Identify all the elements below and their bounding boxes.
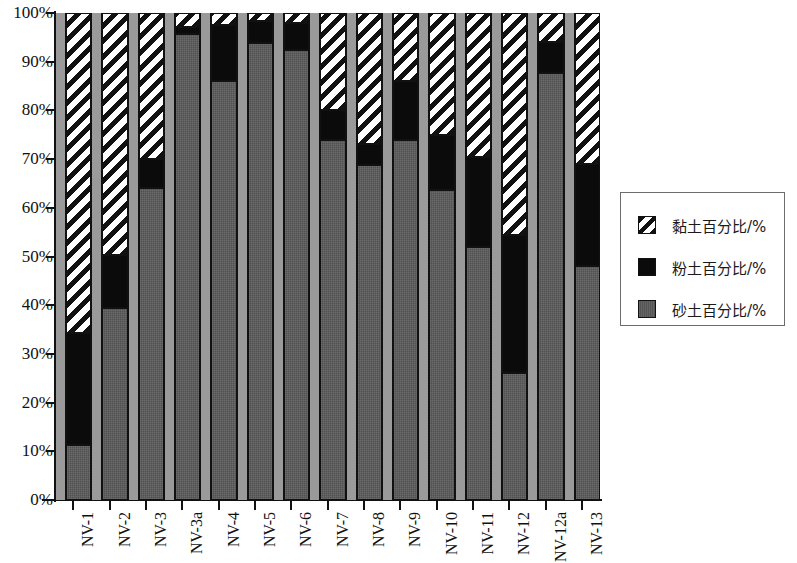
bar-segment-silt[interactable] xyxy=(393,81,418,139)
bar-gap-strip xyxy=(164,13,175,500)
bar-segment-silt[interactable] xyxy=(248,21,273,43)
x-axis-tick xyxy=(327,501,329,510)
x-axis-tick xyxy=(290,501,292,510)
bar-segment-silt[interactable] xyxy=(284,23,309,50)
x-axis-tick-label: NV-4 xyxy=(226,512,242,547)
x-axis-tick xyxy=(436,501,438,510)
bar-segment-silt[interactable] xyxy=(538,42,563,73)
bar-segment-clay[interactable] xyxy=(139,13,164,159)
bar-segment-clay[interactable] xyxy=(102,13,127,255)
stacked-bar[interactable] xyxy=(575,13,600,500)
bar-segment-sand[interactable] xyxy=(139,188,164,500)
bar-segment-silt[interactable] xyxy=(320,110,345,139)
bar-gap-strip xyxy=(382,13,393,500)
bar-segment-sand[interactable] xyxy=(502,373,527,500)
bar-segment-silt[interactable] xyxy=(175,27,200,34)
x-axis-tick-label: NV-1 xyxy=(80,512,96,547)
bar-segment-silt[interactable] xyxy=(66,333,91,445)
legend-item: 砂土百分比/% xyxy=(638,299,766,319)
bar-segment-silt[interactable] xyxy=(466,157,491,247)
x-axis-tick xyxy=(218,501,220,510)
bar-segment-sand[interactable] xyxy=(466,247,491,500)
stacked-bar[interactable] xyxy=(211,13,236,500)
x-axis-tick-label: NV-12a xyxy=(553,512,569,562)
stacked-bar[interactable] xyxy=(248,13,273,500)
bar-segment-sand[interactable] xyxy=(66,445,91,500)
bar-segment-sand[interactable] xyxy=(320,140,345,500)
y-axis-tick-label: 100% xyxy=(13,4,53,21)
bar-segment-clay[interactable] xyxy=(393,13,418,81)
bar-gap-strip xyxy=(527,13,538,500)
bar-segment-clay[interactable] xyxy=(211,13,236,25)
x-axis-tick xyxy=(181,501,183,510)
stacked-bar[interactable] xyxy=(320,13,345,500)
x-axis-tick-label: NV-6 xyxy=(298,512,314,547)
stacked-bar[interactable] xyxy=(175,13,200,500)
bar-segment-sand[interactable] xyxy=(102,308,127,500)
x-axis-tick xyxy=(545,501,547,510)
bar-gap-strip xyxy=(91,13,102,500)
y-axis-tick-label: 0% xyxy=(30,491,53,508)
bar-segment-silt[interactable] xyxy=(211,25,236,81)
bar-gap-strip xyxy=(55,13,66,500)
bar-segment-sand[interactable] xyxy=(284,50,309,500)
legend-item-label: 黏土百分比/% xyxy=(672,215,766,236)
stacked-bar[interactable] xyxy=(466,13,491,500)
stacked-bar[interactable] xyxy=(538,13,563,500)
bar-segment-clay[interactable] xyxy=(575,13,600,164)
bar-segment-sand[interactable] xyxy=(211,81,236,500)
sand-gray-swatch xyxy=(638,300,656,318)
x-axis-tick-label: NV-7 xyxy=(335,512,351,547)
bar-gap-strip xyxy=(200,13,211,500)
y-axis-tick-label: 60% xyxy=(22,199,53,216)
x-axis-tick-label: NV-3a xyxy=(189,512,205,554)
bar-segment-sand[interactable] xyxy=(393,140,418,500)
stacked-bar[interactable] xyxy=(357,13,382,500)
bar-segment-sand[interactable] xyxy=(429,190,454,500)
bar-segment-clay[interactable] xyxy=(538,13,563,42)
x-axis-tick-label: NV-2 xyxy=(117,512,133,547)
bar-segment-clay[interactable] xyxy=(248,13,273,21)
x-axis-tick xyxy=(363,501,365,510)
bar-gap-strip xyxy=(491,13,502,500)
stacked-bar[interactable] xyxy=(284,13,309,500)
y-axis-tick-label: 20% xyxy=(22,394,53,411)
bar-segment-sand[interactable] xyxy=(575,266,600,500)
x-axis-tick xyxy=(72,501,74,510)
x-axis-tick xyxy=(508,501,510,510)
bar-segment-sand[interactable] xyxy=(175,34,200,500)
stacked-bar[interactable] xyxy=(139,13,164,500)
x-axis-tick xyxy=(109,501,111,510)
bar-segment-sand[interactable] xyxy=(357,165,382,500)
bar-gap-strip xyxy=(237,13,248,500)
stacked-bar[interactable] xyxy=(429,13,454,500)
legend-item-label: 砂土百分比/% xyxy=(672,299,766,320)
bar-segment-clay[interactable] xyxy=(320,13,345,110)
bar-gap-strip xyxy=(273,13,284,500)
bar-segment-silt[interactable] xyxy=(139,159,164,188)
bar-segment-clay[interactable] xyxy=(357,13,382,144)
bar-segment-silt[interactable] xyxy=(429,135,454,190)
bar-segment-sand[interactable] xyxy=(248,43,273,500)
bar-segment-clay[interactable] xyxy=(66,13,91,333)
y-axis-tick-label: 40% xyxy=(22,296,53,313)
bar-segment-silt[interactable] xyxy=(357,144,382,164)
stacked-bar[interactable] xyxy=(393,13,418,500)
bar-segment-silt[interactable] xyxy=(502,235,527,374)
bar-segment-sand[interactable] xyxy=(538,73,563,500)
stacked-bar[interactable] xyxy=(66,13,91,500)
y-axis-tick-label: 10% xyxy=(22,442,53,459)
stacked-bar[interactable] xyxy=(502,13,527,500)
x-axis-tick xyxy=(254,501,256,510)
bar-gap-strip xyxy=(309,13,320,500)
bar-segment-clay[interactable] xyxy=(284,13,309,23)
bar-segment-clay[interactable] xyxy=(502,13,527,235)
bar-segment-clay[interactable] xyxy=(466,13,491,157)
bar-segment-clay[interactable] xyxy=(175,13,200,27)
y-axis-tick-label: 50% xyxy=(22,248,53,265)
bar-segment-silt[interactable] xyxy=(575,164,600,266)
bar-segment-silt[interactable] xyxy=(102,255,127,309)
x-axis-tick-label: NV-11 xyxy=(480,512,496,554)
stacked-bar[interactable] xyxy=(102,13,127,500)
bar-segment-clay[interactable] xyxy=(429,13,454,135)
